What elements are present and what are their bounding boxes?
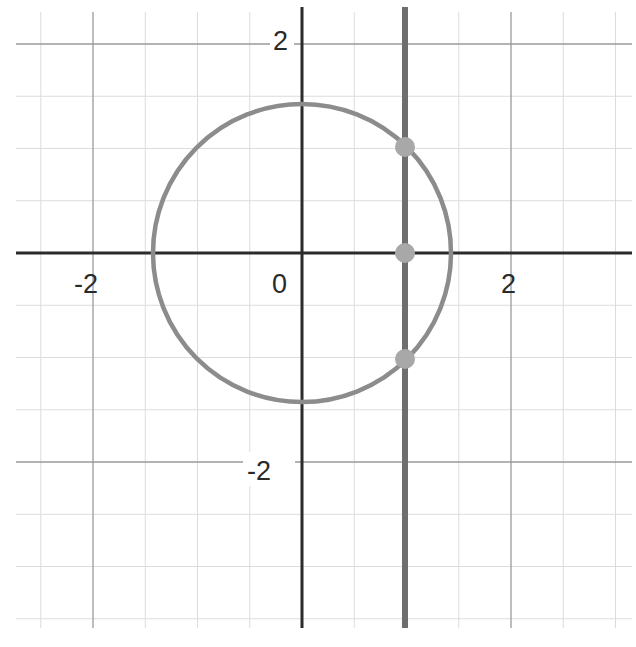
intersection-point-top[interactable] bbox=[395, 137, 415, 157]
graph-canvas: 2 -2 -2 0 2 bbox=[0, 0, 636, 647]
y-tick-label-2: 2 bbox=[273, 26, 288, 56]
intersection-point-middle[interactable] bbox=[395, 243, 415, 263]
y-tick-label-neg2: -2 bbox=[247, 456, 271, 486]
x-tick-label-2: 2 bbox=[501, 269, 516, 299]
intersection-point-bottom[interactable] bbox=[395, 349, 415, 369]
x-tick-label-0: 0 bbox=[272, 269, 287, 299]
x-tick-label-neg2: -2 bbox=[74, 269, 98, 299]
